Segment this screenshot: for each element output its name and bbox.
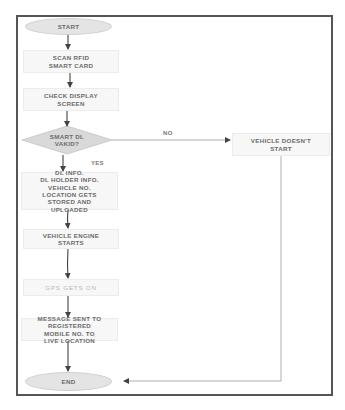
no-edge-label: NO	[163, 130, 173, 136]
scan-rfid-step: SCAN RFID SMART CARD	[23, 50, 119, 73]
check-display-step: CHECK DISPLAY SCREEN	[23, 88, 119, 111]
engine-starts-step: VEHICLE ENGINE STARTS	[23, 229, 119, 249]
smart-dl-valid-decision: SMART DL VAKID?	[22, 126, 112, 154]
yes-edge-label: YES	[91, 160, 104, 166]
start-terminal: START	[25, 18, 112, 35]
gps-on-step: GPS GETS ON	[23, 279, 119, 296]
dl-info-stored-step: DL INFO. DL HOLDER INFO. VEHICLE NO. LOC…	[21, 172, 118, 210]
vehicle-doesnt-start-step: VEHICLE DOESN'T START	[232, 133, 330, 156]
message-sent-step: MESSAGE SENT TO REGISTERED MOBILE NO. TO…	[21, 318, 118, 341]
end-terminal: END	[25, 372, 112, 391]
